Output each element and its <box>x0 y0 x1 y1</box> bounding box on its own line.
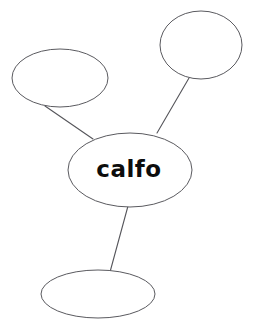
concept-map-diagram: calfo <box>0 0 255 328</box>
connector-line-top-right <box>157 78 189 133</box>
center-node-group: calfo <box>68 133 192 207</box>
connector-line-top-left <box>45 106 93 139</box>
node-bottom[interactable] <box>41 270 155 318</box>
node-top-left[interactable] <box>12 49 108 107</box>
diagram-canvas: calfo <box>0 0 255 328</box>
node-top-right[interactable] <box>160 11 242 79</box>
connector-line-bottom <box>110 206 128 272</box>
center-node-label: calfo <box>96 156 161 182</box>
